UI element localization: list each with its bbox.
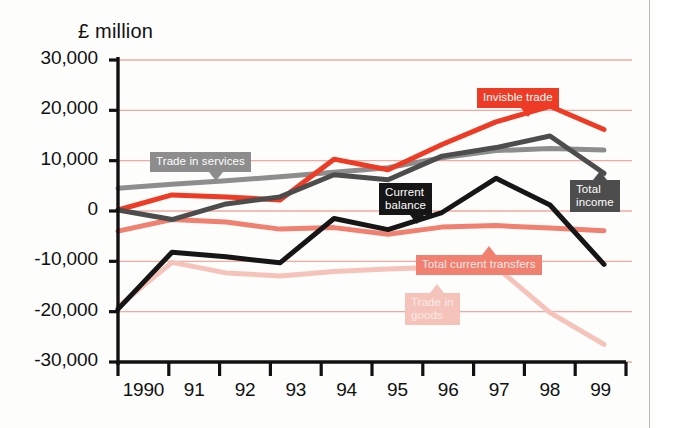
line-chart [0, 0, 675, 428]
trade-in-goods-label: Trade in goods [405, 293, 460, 325]
y-axis-tick-label: 0 [0, 198, 98, 220]
y-axis-tick-label: -20,000 [0, 299, 98, 321]
y-axis-tick-label: -10,000 [0, 248, 98, 270]
invisble-trade-label: Invisble trade [477, 88, 559, 108]
x-axis-tick-label-99: 99 [566, 379, 636, 401]
callout-arrow-icon [482, 246, 496, 255]
callout-arrow-icon [593, 171, 607, 180]
y-axis-tick-label: 30,000 [0, 47, 98, 69]
callout-arrow-icon [410, 215, 424, 224]
series-line-trade-in-goods [118, 262, 604, 344]
callout-arrow-icon [209, 172, 223, 181]
y-axis-tick-label: 10,000 [0, 148, 98, 170]
trade-in-services-label: Trade in services [150, 152, 251, 172]
y-axis-tick-label: -30,000 [0, 349, 98, 371]
y-axis-tick-label: 20,000 [0, 97, 98, 119]
total-current-transfers-label: Total current transfers [416, 255, 542, 275]
callout-arrow-icon [430, 284, 444, 293]
callout-arrow-icon [521, 108, 535, 117]
chart-page: £ million 30,00020,00010,0000-10,000-20,… [0, 0, 675, 428]
total-income-label: Total income [570, 180, 620, 212]
current-balance-label: Current balance [379, 183, 432, 215]
